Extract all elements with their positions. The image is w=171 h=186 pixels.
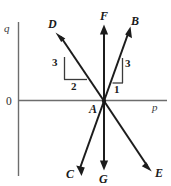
- vector-E-line: [104, 101, 147, 166]
- vector-B-label: B: [130, 14, 139, 28]
- vector-diagram-canvas: q p 0 A D F B C G E 3 2 3 1: [0, 0, 171, 186]
- vector-D-label: D: [47, 17, 57, 31]
- origin-zero-label: 0: [6, 95, 12, 107]
- left-triangle-run-label: 2: [71, 80, 77, 92]
- vector-E-arrowhead: [142, 162, 152, 171]
- vector-F-label: F: [99, 9, 108, 23]
- left-triangle-rise-label: 3: [52, 56, 58, 68]
- vector-G-label: G: [99, 172, 108, 186]
- vector-F-arrowhead: [100, 25, 108, 35]
- vector-E-label: E: [154, 166, 163, 180]
- vector-D-line: [61, 37, 105, 102]
- vector-C-label: C: [66, 167, 75, 181]
- point-A-label: A: [88, 102, 97, 116]
- right-triangle-rise-label: 3: [125, 57, 131, 69]
- q-axis-label: q: [4, 22, 10, 34]
- vector-C-arrowhead: [76, 165, 85, 176]
- vector-G-arrowhead: [100, 161, 108, 171]
- vector-diagram-figure: q p 0 A D F B C G E 3 2 3 1: [0, 0, 171, 186]
- right-triangle-run-label: 1: [114, 83, 120, 95]
- origin-point-A-marker: [102, 99, 106, 103]
- p-axis-label: p: [151, 101, 158, 113]
